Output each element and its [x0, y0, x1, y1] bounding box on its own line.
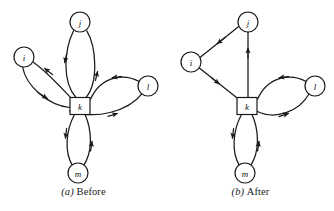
panel-before: j i l k m (: [0, 0, 167, 211]
edge-m-to-k: [250, 115, 259, 166]
node-m[interactable]: m: [235, 163, 255, 183]
caption-tag-before: (a): [61, 186, 74, 197]
figure-root: j i l k m (: [0, 0, 334, 211]
edge-k-to-m: [65, 115, 74, 166]
node-l[interactable]: l: [305, 76, 325, 96]
node-k[interactable]: k: [70, 98, 90, 115]
edge-j-to-i: [200, 27, 238, 58]
edge-k-to-m: [232, 115, 241, 166]
node-i[interactable]: i: [14, 47, 34, 67]
node-j[interactable]: j: [70, 12, 90, 32]
edge-i-to-k: [199, 68, 237, 98]
panel-after: j i l k m (: [167, 0, 334, 211]
caption-text-after: After: [247, 186, 270, 197]
caption-text-before: Before: [77, 186, 106, 197]
edge-j-to-k: [65, 31, 76, 98]
caption-after: (b) After: [167, 186, 334, 198]
node-j[interactable]: j: [238, 12, 258, 32]
caption-tag-after: (b): [232, 186, 245, 197]
graph-before: j i l k m: [0, 0, 167, 211]
node-i[interactable]: i: [181, 52, 201, 72]
edge-l-to-k: [258, 77, 307, 100]
edge-m-to-k: [83, 115, 92, 166]
edge-l-to-k: [91, 77, 140, 100]
node-l[interactable]: l: [138, 76, 158, 96]
graph-after: j i l k m: [167, 0, 334, 211]
node-m[interactable]: m: [68, 163, 88, 183]
node-k[interactable]: k: [237, 98, 257, 115]
edge-k-to-j: [86, 31, 98, 98]
edge-k-to-l: [257, 93, 309, 116]
nodes-after: j i l k m: [181, 12, 325, 183]
nodes-before: j i l k m: [14, 12, 158, 183]
node-label-m: m: [242, 169, 249, 179]
node-label-j: j: [246, 18, 250, 28]
node-label-m: m: [75, 169, 82, 179]
caption-before: (a) Before: [0, 186, 167, 198]
node-label-j: j: [78, 18, 82, 28]
